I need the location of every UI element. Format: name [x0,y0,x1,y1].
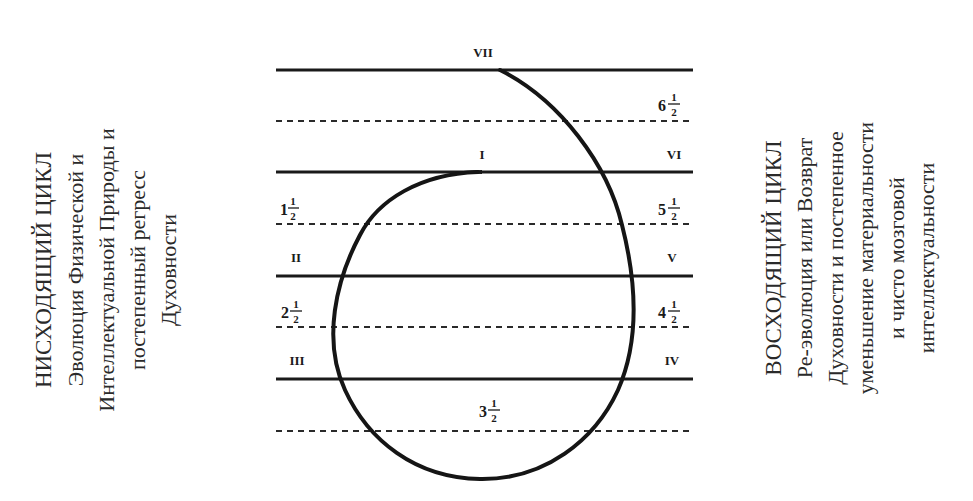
label-3-half: 3 1 2 [479,397,500,424]
label-5-half: 5 1 2 [658,195,680,222]
label-iv: IV [665,353,680,368]
svg-text:1: 1 [290,195,296,207]
label-1-half: 1 1 2 [280,195,299,222]
svg-text:2: 2 [671,210,677,222]
label-ii: II [291,250,301,265]
svg-text:2: 2 [671,313,677,325]
svg-text:1: 1 [293,298,299,310]
svg-text:4: 4 [658,304,666,321]
label-vii: VII [473,45,493,60]
label-i: I [479,147,484,162]
svg-text:2: 2 [290,210,296,222]
svg-text:1: 1 [280,201,288,218]
svg-text:2: 2 [491,412,497,424]
svg-text:3: 3 [479,403,487,420]
svg-text:1: 1 [491,397,497,409]
label-v: V [667,250,677,265]
svg-text:2: 2 [671,106,677,118]
svg-text:1: 1 [671,298,677,310]
label-2-half: 2 1 2 [281,298,302,325]
label-6-half: 6 1 2 [658,91,680,118]
svg-text:5: 5 [658,201,666,218]
svg-text:1: 1 [671,91,677,103]
svg-text:2: 2 [281,304,289,321]
label-vi: VI [667,147,681,162]
label-4-half: 4 1 2 [658,298,680,325]
svg-text:2: 2 [293,313,299,325]
label-iii: III [289,353,304,368]
spiral-cycle-diagram: VII I VI II V III IV 6 1 2 5 1 2 4 1 2 1… [0,0,973,501]
svg-text:1: 1 [671,195,677,207]
svg-text:6: 6 [658,97,666,114]
